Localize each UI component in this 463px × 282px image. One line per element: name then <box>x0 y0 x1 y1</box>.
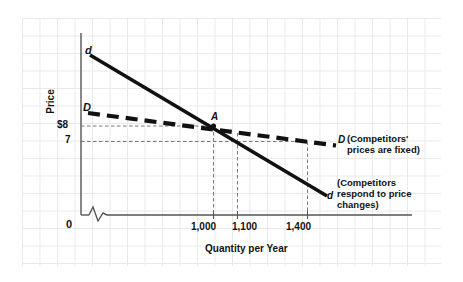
chart-canvas: Price $8 7 0 1,000 1,100 1,400 Quantity … <box>0 0 463 282</box>
legend-label-d-letter: d <box>327 190 333 202</box>
legend-label-D-letter: D <box>338 134 345 146</box>
x-tick-label-1000: 1,000 <box>191 221 216 233</box>
y-axis-title: Price <box>45 73 56 131</box>
x-tick-label-1100: 1,100 <box>232 221 257 233</box>
curve-label-d-top: d <box>85 44 92 57</box>
demand-curve-d-solid[interactable] <box>90 55 327 196</box>
y-tick-label-7: 7 <box>65 134 71 146</box>
axis-break-zigzag-icon <box>89 207 107 221</box>
origin-label: 0 <box>66 218 72 231</box>
point-a-marker <box>211 123 216 128</box>
curve-label-D-left: D <box>83 101 91 114</box>
y-tick-label-8: $8 <box>57 119 68 131</box>
x-tick-label-1400: 1,400 <box>286 221 311 233</box>
x-axis-title: Quantity per Year <box>205 243 288 255</box>
point-a-label: A <box>211 111 218 123</box>
legend-caption-d: (Competitors respond to price changes) <box>337 177 411 211</box>
legend-caption-D: (Competitors' prices are fixed) <box>347 133 420 155</box>
